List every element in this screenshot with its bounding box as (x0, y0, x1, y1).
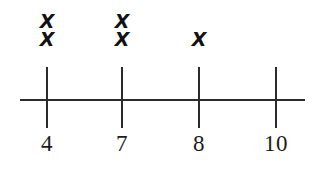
mark-stack-7: X X (102, 12, 142, 48)
axis-tick-10 (275, 67, 277, 128)
axis-label-7: 7 (92, 131, 152, 157)
axis-label-4: 4 (17, 131, 77, 157)
mark-stack-4: X X (27, 12, 67, 48)
axis-tick-8 (198, 67, 200, 128)
axis-label-10: 10 (246, 131, 306, 157)
axis-tick-7 (121, 67, 123, 128)
x-mark: X (179, 30, 219, 48)
x-mark: X (102, 30, 142, 48)
axis-label-8: 8 (169, 131, 229, 157)
mark-stack-8: X (179, 30, 219, 48)
x-mark: X (27, 30, 67, 48)
dot-plot-chart: X X 4 X X 7 X 8 10 (0, 0, 315, 174)
axis-tick-4 (46, 67, 48, 128)
x-axis-line (20, 99, 305, 101)
